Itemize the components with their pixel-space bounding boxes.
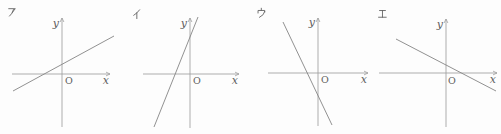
panel-1-choice-label-glyph	[9, 9, 16, 16]
figure-svg: yxOyxOyxOyxO	[0, 0, 501, 134]
panel-4-y-axis-label: y	[436, 18, 444, 31]
panel-1-x-axis-label: x	[103, 74, 110, 87]
panel-3-y-axis-label: y	[308, 16, 316, 29]
panel-3-origin-label: O	[321, 74, 329, 85]
panel-2-function-line	[154, 17, 198, 127]
linear-function-graph-choices-figure: yxOyxOyxOyxO	[0, 0, 501, 134]
panel-4-origin-label: O	[448, 75, 456, 86]
panel-2-origin-label: O	[193, 75, 201, 86]
panel-1-y-axis-label: y	[52, 17, 60, 30]
graph-panel-4: yxO	[379, 11, 497, 127]
panel-4-x-axis-label: x	[490, 73, 497, 86]
panel-2-choice-label-glyph	[134, 10, 140, 19]
panel-3-x-axis-label: x	[361, 73, 368, 86]
panel-2-x-axis-label: x	[232, 74, 239, 87]
panel-3-choice-label-glyph	[258, 8, 265, 17]
panel-4-choice-label-glyph	[379, 11, 387, 18]
graph-panel-1: yxO	[9, 9, 114, 127]
panel-1-origin-label: O	[65, 75, 73, 86]
panel-1-function-line	[13, 36, 114, 91]
graph-panel-3: yxO	[258, 8, 368, 126]
panel-2-y-axis-label: y	[180, 17, 188, 30]
graph-panel-2: yxO	[134, 10, 239, 128]
